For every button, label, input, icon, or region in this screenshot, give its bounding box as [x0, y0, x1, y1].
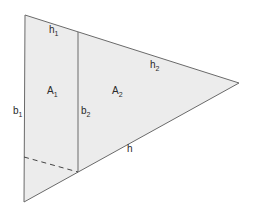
triangle-diagram: h1 h2 h A1 A2 b1 b2: [0, 0, 254, 215]
label-b1: b1: [13, 105, 23, 118]
outer-triangle: [24, 15, 239, 202]
label-h: h: [127, 143, 133, 154]
